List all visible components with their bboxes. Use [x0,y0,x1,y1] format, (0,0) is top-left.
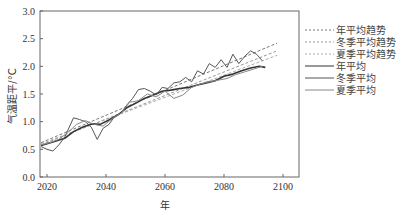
line-chart: 0.00.51.01.52.02.53.0 202020402060208021… [0,0,400,217]
series-line-5 [41,66,262,145]
plot-border [40,11,299,177]
y-tick-label: 0.0 [23,172,36,183]
series-line-3 [41,66,265,145]
plot-frame [40,11,299,177]
x-tick-label: 2080 [214,181,234,192]
x-tick-label: 2100 [273,181,293,192]
x-tick-label: 2060 [155,181,175,192]
legend-label: 夏季平均趋势 [336,48,396,60]
legend-label: 冬季平均趋势 [336,36,396,48]
legend: 年平均趋势冬季平均趋势夏季平均趋势年平均冬季平均夏季平均 [305,24,396,96]
legend-label: 年平均趋势 [336,24,386,36]
x-tick-label: 2020 [37,181,57,192]
y-tick-label: 0.5 [23,144,36,155]
legend-label: 夏季平均 [336,85,376,96]
x-tick-label: 2040 [96,181,116,192]
legend-label: 年平均 [336,60,366,72]
series-layer [41,43,277,151]
y-tick-label: 1.5 [23,89,36,100]
x-axis-title: 年 [160,199,170,211]
y-axis-title: 气温距平/°C [6,68,18,123]
y-tick-label: 2.0 [23,61,36,72]
y-tick-label: 2.5 [23,33,36,44]
series-line-4 [41,51,262,151]
y-tick-label: 3.0 [23,6,36,17]
legend-label: 冬季平均 [336,72,376,84]
y-tick-label: 1.0 [23,116,36,127]
